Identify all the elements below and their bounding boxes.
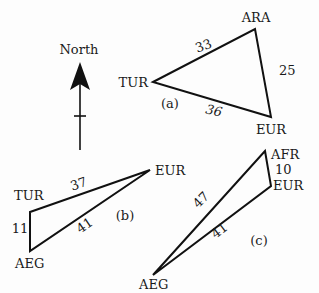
vertex-label-afr: AFR xyxy=(270,147,300,162)
edge-length-ara-eur: 25 xyxy=(279,63,296,78)
triangle-a: TUR ARA EUR 33 25 36 (a) xyxy=(119,10,296,137)
triangle-tag-c: (c) xyxy=(250,233,267,248)
edge-length-aeg-eur: 41 xyxy=(73,214,95,236)
plate-triangles-diagram: North TUR ARA EUR 33 25 36 (a) TUR EUR A… xyxy=(0,0,319,293)
vertex-label-eur: EUR xyxy=(256,122,287,137)
edge-length-tur-eur: 36 xyxy=(204,102,223,120)
vertex-label-aeg: AEG xyxy=(138,277,168,292)
triangle-tag-a: (a) xyxy=(161,96,179,111)
edge-length-tur-aeg: 11 xyxy=(12,221,29,236)
vertex-label-aeg: AEG xyxy=(14,256,44,271)
vertex-label-tur: TUR xyxy=(119,75,150,90)
north-arrow: North xyxy=(59,42,99,150)
vertex-label-tur: TUR xyxy=(14,188,45,203)
vertex-label-eur: EUR xyxy=(273,178,304,193)
edge-length-afr-eur: 10 xyxy=(275,162,292,177)
edge-length-aeg-eur: 41 xyxy=(208,219,230,241)
triangle-b: TUR EUR AEG 37 11 41 (b) xyxy=(12,163,187,271)
north-label: North xyxy=(59,42,99,57)
diagram-svg: North TUR ARA EUR 33 25 36 (a) TUR EUR A… xyxy=(0,0,319,293)
triangle-tag-b: (b) xyxy=(116,208,134,223)
edge-length-aeg-afr: 47 xyxy=(190,189,212,211)
vertex-label-ara: ARA xyxy=(241,10,271,25)
edge-length-tur-eur: 37 xyxy=(68,174,89,194)
vertex-label-eur: EUR xyxy=(155,163,186,178)
